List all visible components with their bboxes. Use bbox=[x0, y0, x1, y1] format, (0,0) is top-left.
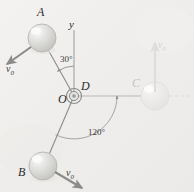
label-angle-30: 30° bbox=[60, 55, 73, 64]
velocity-c-subscript: 0 bbox=[162, 45, 166, 53]
ball-a bbox=[28, 24, 56, 54]
label-velocity-a: v0 bbox=[6, 64, 14, 77]
physics-figure: A B C D O y 30° 120° v0 v0 v0 bbox=[0, 0, 194, 192]
label-hub-d: D bbox=[81, 80, 90, 92]
label-ball-b: B bbox=[18, 166, 25, 178]
velocity-b-subscript: 0 bbox=[70, 173, 74, 181]
label-ball-a: A bbox=[37, 6, 44, 18]
label-axis-y: y bbox=[69, 19, 74, 30]
label-velocity-c: v0 bbox=[158, 40, 166, 53]
figure-canvas bbox=[0, 0, 194, 192]
velocity-arrow-a bbox=[7, 47, 31, 64]
velocity-a-subscript: 0 bbox=[10, 69, 14, 77]
label-angle-120: 120° bbox=[88, 128, 105, 137]
label-origin-o: O bbox=[58, 93, 67, 105]
label-ball-c: C bbox=[132, 77, 140, 89]
ball-b bbox=[29, 152, 57, 182]
label-velocity-b: v0 bbox=[66, 168, 74, 181]
